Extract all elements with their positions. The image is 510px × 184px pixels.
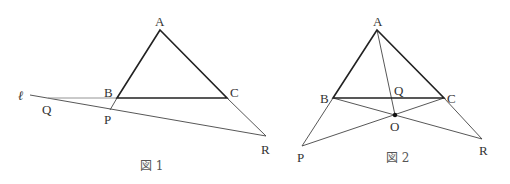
triangle-abc <box>117 30 227 98</box>
label-o: O <box>390 119 399 134</box>
label-r: R <box>479 143 488 158</box>
caption-figure-2: 図 2 <box>386 151 409 165</box>
geometry-figures: ℓ A B C Q P R 図 1 A B C Q O P R 図 2 <box>0 0 510 184</box>
label-l: ℓ <box>18 88 24 103</box>
segment-a-o <box>377 30 395 115</box>
caption-figure-1: 図 1 <box>140 159 163 173</box>
label-c: C <box>230 85 239 100</box>
label-b: B <box>320 91 329 106</box>
segment-b-r <box>333 98 482 139</box>
label-a: A <box>373 14 383 29</box>
label-c: C <box>447 91 456 106</box>
label-q: Q <box>42 102 52 117</box>
label-a: A <box>155 14 165 29</box>
figure-2: A B C Q O P R 図 2 <box>297 14 488 165</box>
figure-1: ℓ A B C Q P R 図 1 <box>18 14 270 173</box>
point-o <box>393 113 397 117</box>
label-p: P <box>104 112 111 127</box>
label-p: P <box>297 150 304 165</box>
label-r: R <box>261 142 270 157</box>
triangle-abc <box>333 30 444 98</box>
label-q: Q <box>394 83 404 98</box>
label-b: B <box>104 85 113 100</box>
